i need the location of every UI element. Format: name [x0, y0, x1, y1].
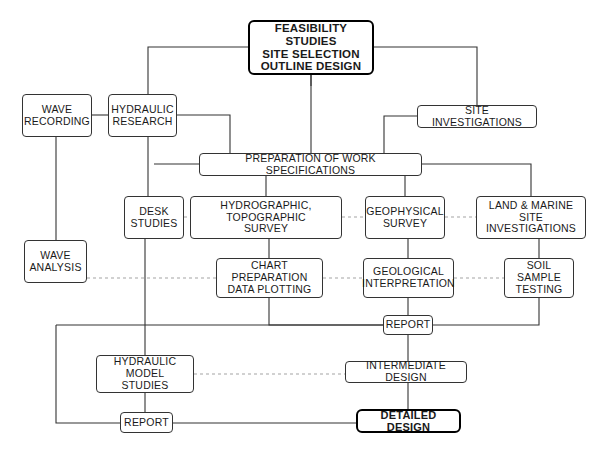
flowchart-canvas: FEASIBILITY STUDIES SITE SELECTION OUTLI… — [0, 0, 606, 455]
connector-feasibility-left-to-hydraulic-research — [148, 47, 248, 94]
connector-soil-sample-down-to-report-mid — [433, 298, 539, 325]
connector-hydraulic-research-right-to-preparation — [177, 115, 230, 153]
node-label-soil_sample: SOIL SAMPLE TESTING — [505, 260, 573, 295]
connector-preparation-right-to-land-marine — [422, 164, 531, 196]
node-wave_analysis[interactable]: WAVE ANALYSIS — [24, 240, 87, 283]
node-label-geological_interpretation: GEOLOGICAL INTERPRETATION — [359, 266, 458, 290]
node-hydro_survey[interactable]: HYDROGRAPHIC, TOPOGRAPHIC SURVEY — [190, 196, 342, 239]
node-label-detailed_design: DETAILED DESIGN — [358, 409, 459, 434]
node-land_marine[interactable]: LAND & MARINE SITE INVESTIGATIONS — [476, 196, 586, 239]
node-desk_studies[interactable]: DESK STUDIES — [124, 196, 184, 239]
node-detailed_design[interactable]: DETAILED DESIGN — [356, 409, 461, 433]
node-label-report_bottom: REPORT — [121, 417, 172, 429]
connector-site-investigations-left-to-preparation — [384, 116, 417, 153]
node-label-hydraulic_model: HYDRAULIC MODEL STUDIES — [97, 356, 193, 391]
node-label-site_investigations: SITE INVESTIGATIONS — [418, 105, 536, 129]
node-feasibility[interactable]: FEASIBILITY STUDIES SITE SELECTION OUTLI… — [248, 20, 374, 75]
node-geological_interpretation[interactable]: GEOLOGICAL INTERPRETATION — [363, 258, 454, 298]
node-hydraulic_research[interactable]: HYDRAULIC RESEARCH — [108, 94, 177, 137]
connector-feasibility-right-to-site-investigations — [374, 47, 477, 105]
node-hydraulic_model[interactable]: HYDRAULIC MODEL STUDIES — [96, 355, 194, 393]
node-label-hydraulic_research: HYDRAULIC RESEARCH — [108, 104, 176, 128]
node-intermediate_design[interactable]: INTERMEDIATE DESIGN — [345, 361, 467, 383]
node-preparation[interactable]: PREPARATION OF WORK SPECIFICATIONS — [199, 153, 422, 176]
node-label-hydro_survey: HYDROGRAPHIC, TOPOGRAPHIC SURVEY — [191, 200, 341, 235]
node-label-chart_preparation: CHART PREPARATION DATA PLOTTING — [217, 260, 322, 295]
node-report_bottom[interactable]: REPORT — [120, 412, 173, 433]
node-geophysical_survey[interactable]: GEOPHYSICAL SURVEY — [365, 196, 445, 239]
node-soil_sample[interactable]: SOIL SAMPLE TESTING — [504, 258, 574, 298]
node-label-report_mid: REPORT — [383, 319, 434, 331]
node-site_investigations[interactable]: SITE INVESTIGATIONS — [417, 105, 537, 128]
node-report_mid[interactable]: REPORT — [383, 315, 433, 335]
node-label-wave_recording: WAVE RECORDING — [21, 104, 93, 128]
connector-chart-preparation-down-to-report-mid — [269, 298, 383, 325]
node-label-land_marine: LAND & MARINE SITE INVESTIGATIONS — [477, 200, 585, 235]
node-label-intermediate_design: INTERMEDIATE DESIGN — [346, 360, 466, 384]
node-label-desk_studies: DESK STUDIES — [128, 206, 181, 230]
node-label-feasibility: FEASIBILITY STUDIES SITE SELECTION OUTLI… — [250, 22, 372, 74]
node-wave_recording[interactable]: WAVE RECORDING — [22, 94, 92, 137]
node-chart_preparation[interactable]: CHART PREPARATION DATA PLOTTING — [216, 258, 323, 298]
node-label-geophysical_survey: GEOPHYSICAL SURVEY — [363, 206, 446, 230]
node-label-preparation: PREPARATION OF WORK SPECIFICATIONS — [200, 153, 421, 177]
node-label-wave_analysis: WAVE ANALYSIS — [26, 250, 84, 274]
